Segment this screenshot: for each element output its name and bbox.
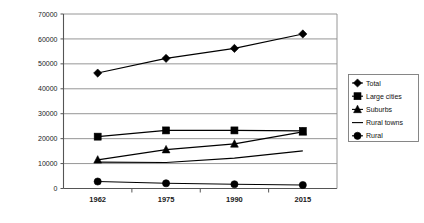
y-tick-label: 10000 xyxy=(38,160,58,167)
data-point xyxy=(162,54,170,62)
data-point xyxy=(94,69,102,77)
series-line xyxy=(98,130,303,136)
x-axis-tick-marks xyxy=(132,189,269,193)
data-series xyxy=(94,30,307,189)
series-suburbs xyxy=(94,128,307,163)
x-tick-label: 1962 xyxy=(89,195,106,204)
y-tick-label: 0 xyxy=(54,185,58,192)
x-axis-tick-labels: 1962197519902015 xyxy=(89,195,311,204)
chart-legend: TotalLarge citiesSuburbsRural townsRural xyxy=(349,75,419,142)
line-chart-figure: 700006000050000400003000020000100000 196… xyxy=(0,0,424,223)
data-point xyxy=(231,181,238,188)
y-tick-label: 40000 xyxy=(38,85,58,92)
data-point xyxy=(299,181,306,188)
x-tick-label: 2015 xyxy=(294,195,311,204)
series-total xyxy=(94,30,307,77)
legend-item-total[interactable]: Total xyxy=(352,79,381,87)
legend-label: Suburbs xyxy=(366,106,393,113)
series-line xyxy=(98,132,303,160)
data-point xyxy=(231,127,238,134)
chart-canvas: 700006000050000400003000020000100000 196… xyxy=(0,0,424,223)
legend-marker xyxy=(354,93,361,100)
y-tick-label: 30000 xyxy=(38,110,58,117)
y-tick-label: 60000 xyxy=(38,36,58,43)
series-line xyxy=(98,151,303,163)
legend-item-rural[interactable]: Rural xyxy=(352,132,383,139)
data-point xyxy=(162,180,169,187)
x-tick-label: 1990 xyxy=(226,195,243,204)
series-line xyxy=(98,182,303,185)
y-tick-label: 20000 xyxy=(38,135,58,142)
data-point xyxy=(94,133,101,140)
data-point xyxy=(230,44,238,52)
data-point xyxy=(163,127,170,134)
legend-label: Rural xyxy=(366,132,383,139)
y-tick-label: 70000 xyxy=(38,11,58,18)
y-tick-label: 50000 xyxy=(38,60,58,67)
series-rural-towns xyxy=(98,151,303,163)
legend-label: Total xyxy=(366,80,381,87)
legend-label: Rural towns xyxy=(366,119,403,126)
data-point xyxy=(299,30,307,38)
legend-label: Large cities xyxy=(366,93,402,101)
x-tick-label: 1975 xyxy=(158,195,175,204)
data-point xyxy=(94,178,101,185)
series-large-cities xyxy=(94,127,306,140)
legend-marker xyxy=(354,132,361,139)
series-line xyxy=(98,34,303,73)
series-rural xyxy=(94,178,306,189)
legend-item-suburbs[interactable]: Suburbs xyxy=(352,105,393,113)
legend-item-large-cities[interactable]: Large cities xyxy=(352,93,402,101)
y-axis-tick-labels: 700006000050000400003000020000100000 xyxy=(38,11,58,193)
